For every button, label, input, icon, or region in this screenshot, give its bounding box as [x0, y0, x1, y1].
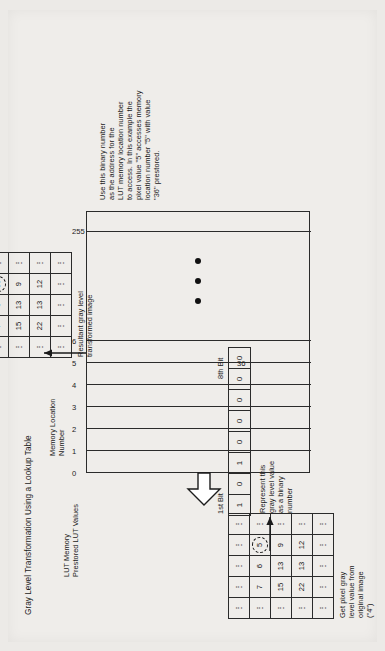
- result-cell-1-4: ⋮: [0, 253, 8, 274]
- diagram-arrows: [10, 11, 376, 641]
- table-row: ⋮ 7 6 36 ⋮: [0, 253, 8, 358]
- result-cell-1-1: 7: [0, 316, 8, 337]
- result-highlight-circle: 36: [0, 276, 6, 292]
- figure-paper: Gray Level Transformation Using a Lookup…: [8, 10, 377, 642]
- arrow-binary-to-lut: [188, 473, 220, 505]
- result-cell-1-2: 6: [0, 295, 8, 316]
- result-cell-highlighted: 36: [0, 274, 8, 295]
- figure-stage: Gray Level Transformation Using a Lookup…: [10, 11, 376, 641]
- arrow-lut-to-result: [44, 349, 86, 356]
- result-cell-1-0: ⋮: [0, 337, 8, 358]
- arrow-source-to-binary: [266, 517, 273, 551]
- scan-background: Gray Level Transformation Using a Lookup…: [0, 0, 385, 651]
